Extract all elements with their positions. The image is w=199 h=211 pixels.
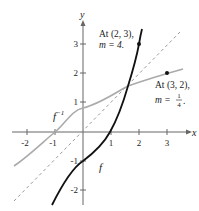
svg-text:-2: -2 (71, 185, 79, 195)
svg-text:3: 3 (165, 138, 170, 148)
annotation-3-2: At (3, 2), m = 1 4 . (155, 80, 190, 109)
svg-text:2: 2 (137, 138, 142, 148)
annotation-2-3: At (2, 3), m = 4. (99, 29, 134, 50)
point-3-2 (165, 71, 169, 75)
svg-text:-2: -2 (21, 138, 29, 148)
svg-text:.: . (183, 96, 185, 106)
f-curve (52, 29, 142, 205)
svg-text:1: 1 (177, 92, 181, 100)
svg-text:m = 4.: m = 4. (99, 40, 124, 50)
svg-text:-1: -1 (49, 138, 57, 148)
y-axis-arrow-icon (81, 20, 86, 26)
y-axis-label: y (79, 9, 85, 20)
svg-text:4: 4 (177, 101, 181, 109)
f-label: f (99, 161, 104, 173)
x-axis-label: x (191, 127, 197, 138)
x-tick-labels: -2 -1 1 2 3 (21, 138, 170, 148)
svg-text:1: 1 (109, 138, 114, 148)
f-inverse-label: f−1 (53, 109, 64, 122)
svg-text:2: 2 (74, 68, 79, 78)
chart: x y -2 -1 1 2 3 3 2 1 -1 -2 f−1 f At (2,… (0, 0, 199, 211)
svg-text:3: 3 (74, 39, 79, 49)
point-2-3 (137, 42, 141, 46)
svg-text:1: 1 (74, 97, 79, 107)
svg-text:m =: m = (155, 95, 171, 105)
svg-text:At (2, 3),: At (2, 3), (99, 29, 134, 40)
svg-text:At (3, 2),: At (3, 2), (155, 80, 190, 91)
svg-text:-1: -1 (71, 156, 79, 166)
identity-line (14, 32, 180, 201)
